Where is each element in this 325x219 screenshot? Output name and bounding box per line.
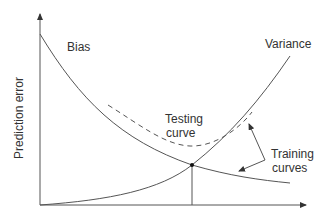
training-label-line2: curves [272, 162, 307, 175]
variance-curve [40, 56, 290, 205]
training-label-line1: Training [271, 148, 314, 161]
testing-label-line2: curve [166, 127, 195, 140]
training-arrow-to-variance [249, 124, 265, 160]
bias-label: Bias [67, 41, 90, 54]
diagram-canvas [0, 0, 325, 219]
testing-label-line1: Testing [165, 113, 203, 126]
optimum-point [190, 163, 194, 167]
variance-label: Variance [265, 38, 311, 51]
bias-curve [40, 34, 290, 183]
training-arrow-to-bias [239, 160, 265, 171]
y-axis-label: Prediction error [12, 79, 26, 159]
